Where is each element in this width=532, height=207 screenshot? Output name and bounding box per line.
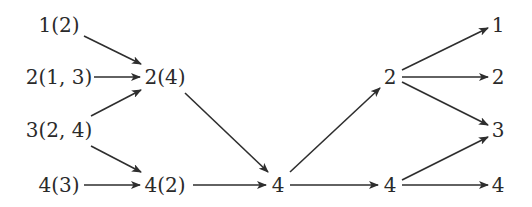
node-b2: 2(4) bbox=[144, 65, 185, 89]
node-a3: 3(2, 4) bbox=[26, 118, 93, 142]
edge-a3-to-b4 bbox=[91, 146, 141, 172]
edge-d4-to-e3 bbox=[402, 137, 488, 180]
node-c4: 4 bbox=[272, 173, 285, 197]
node-e1: 1 bbox=[492, 13, 505, 37]
edges-layer bbox=[84, 28, 488, 185]
diagram-canvas: 1(2)2(1, 3)3(2, 4)4(3)2(4)4(2)4241234 bbox=[0, 0, 532, 207]
node-a4: 4(3) bbox=[38, 173, 79, 197]
edge-d2-to-e1 bbox=[402, 28, 488, 70]
node-e3: 3 bbox=[492, 118, 505, 142]
node-a1: 1(2) bbox=[38, 13, 79, 37]
edge-a3-to-b2 bbox=[91, 90, 141, 116]
node-d4: 4 bbox=[384, 173, 397, 197]
node-a2: 2(1, 3) bbox=[26, 65, 93, 89]
edge-b2-to-c4 bbox=[185, 93, 268, 172]
node-e2: 2 bbox=[492, 65, 505, 89]
node-d2: 2 bbox=[384, 65, 397, 89]
directed-graph: 1(2)2(1, 3)3(2, 4)4(3)2(4)4(2)4241234 bbox=[0, 0, 532, 207]
edge-d2-to-e3 bbox=[402, 82, 488, 125]
node-b4: 4(2) bbox=[144, 173, 185, 197]
node-e4: 4 bbox=[492, 173, 505, 197]
edge-a1-to-b2 bbox=[84, 36, 141, 64]
edge-c4-to-d2 bbox=[290, 88, 380, 172]
